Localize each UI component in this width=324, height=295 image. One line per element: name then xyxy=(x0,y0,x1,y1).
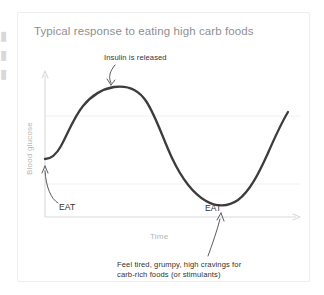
blood-glucose-curve xyxy=(45,87,288,206)
page-edge-glyph: ▮ ▮ ▮ xyxy=(0,26,12,84)
annotation-crash-line-1: Feel tired, grumpy, high cravings for xyxy=(117,260,241,270)
eat-first-arrow-line xyxy=(45,171,58,203)
annotation-insulin-released: Insulin is released xyxy=(104,53,167,63)
annotation-crash-line-2: carb-rich foods (or stimulants) xyxy=(117,270,241,280)
x-axis-label: Time xyxy=(150,232,168,241)
screenshot-stage: ▮ ▮ ▮ Typical response to eating high ca… xyxy=(0,0,324,295)
annotation-crash-symptoms: Feel tired, grumpy, high cravings for ca… xyxy=(117,260,241,280)
y-axis-label: Blood glucose xyxy=(25,119,34,179)
crash-arrow-line xyxy=(208,219,220,256)
annotation-eat-first: EAT xyxy=(59,202,75,212)
annotation-eat-second: EAT xyxy=(205,203,221,213)
chart-card: Typical response to eating high carb foo… xyxy=(17,12,310,282)
